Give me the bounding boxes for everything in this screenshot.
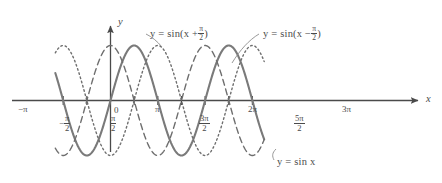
tick-label-3pi: 3π (342, 105, 351, 114)
tick-label-pi-over-2: π2 (110, 113, 116, 132)
annotation-negcos-curve: y = sin(x −π2) (263, 25, 321, 41)
leader-negcos (232, 34, 259, 63)
annotation-negcos-rhs: ) (317, 28, 321, 39)
annotation-sin-curve: y = sin x (277, 157, 315, 168)
tick-label-5pi-over-2: 5π2 (294, 113, 305, 132)
annotation-cos-curve: y = sin(x +π2) (150, 25, 208, 41)
annotation-cos-lhs: y = sin(x + (150, 28, 198, 39)
fraction-5pi-2: 5π2 (294, 114, 305, 133)
fraction-neg-pi-2: π2 (64, 114, 70, 133)
fraction-pi-2: π2 (110, 114, 116, 133)
tick-label-pi: π (155, 105, 160, 114)
tick-label-neg-pi: −π (18, 105, 28, 114)
x-axis-label: x (426, 94, 431, 105)
tick-label-2pi: 2π (248, 105, 257, 114)
tick-label-3pi-over-2: 3π2 (199, 113, 210, 132)
sine-phase-shift-figure: y x 0 −π π 2π 3π −π2 π2 3π2 5π2 y = sin(… (0, 0, 442, 183)
annotation-negcos-lhs: y = sin(x − (263, 28, 311, 39)
y-axis-label: y (118, 17, 123, 28)
plot-canvas (0, 0, 442, 183)
annotation-cos-rhs: ) (204, 28, 208, 39)
tick-label-neg-pi-over-2: −π2 (59, 113, 70, 132)
fraction-3pi-2: 3π2 (199, 114, 210, 133)
leader-sin (273, 149, 276, 160)
